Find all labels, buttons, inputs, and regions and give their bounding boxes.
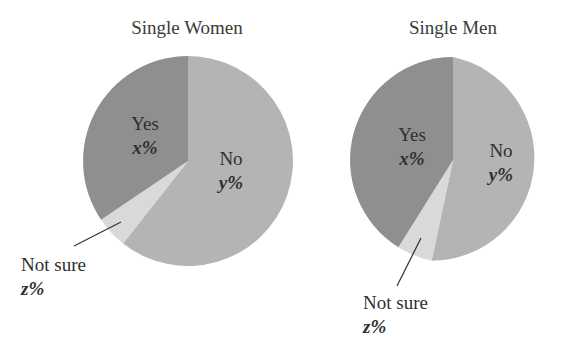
label-yes-men: Yes xyxy=(398,124,426,145)
pie-single-women: Single Women Yes x% No y% Not sure z% xyxy=(20,17,293,299)
value-yes-men: x% xyxy=(398,148,424,169)
chart-title-women: Single Women xyxy=(131,17,243,38)
chart-title-men: Single Men xyxy=(409,17,498,38)
label-no-women: No xyxy=(219,148,242,169)
label-yes-women: Yes xyxy=(131,113,159,134)
pie-single-men: Single Men Yes x% No y% Not sure z% xyxy=(350,17,534,337)
value-no-women: y% xyxy=(217,172,243,193)
value-not-sure-women: z% xyxy=(20,278,44,299)
label-not-sure-men: Not sure xyxy=(363,292,428,313)
value-no-men: y% xyxy=(487,164,513,185)
label-not-sure-women: Not sure xyxy=(21,254,86,275)
pie-charts-figure: Single Women Yes x% No y% Not sure z% Si… xyxy=(0,0,565,339)
label-no-men: No xyxy=(489,140,512,161)
value-yes-women: x% xyxy=(131,137,157,158)
value-not-sure-men: z% xyxy=(362,316,386,337)
